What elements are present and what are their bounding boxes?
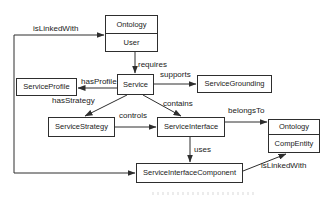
- node-service-interface: ServiceInterface: [157, 117, 225, 137]
- cropped-caption-remnant: [152, 192, 256, 195]
- edge-label-requires: requires: [138, 61, 167, 69]
- node-service-grounding: ServiceGrounding: [197, 75, 272, 93]
- edge-label-belongs-to: belongsTo: [228, 107, 264, 115]
- edge-label-uses: uses: [194, 146, 211, 154]
- edge-label-is-linked-with-bottom: isLinkedWith: [261, 162, 306, 170]
- node-service-profile: ServiceProfile: [16, 78, 77, 96]
- edge-label-has-strategy: hasStrategy: [52, 97, 95, 105]
- edge-label-has-profile: hasProfile: [81, 78, 117, 86]
- node-ontology-user: Ontology User: [105, 15, 158, 52]
- node-ontology-compentity-title: Ontology: [269, 120, 319, 135]
- edge-label-supports: supports: [160, 71, 191, 79]
- ontology-diagram: Ontology User ServiceProfile Service Ser…: [0, 0, 336, 200]
- node-service-interface-component: ServiceInterfaceComponent: [136, 163, 243, 183]
- node-ontology-compentity: Ontology CompEntity: [268, 119, 320, 153]
- node-service-strategy: ServiceStrategy: [48, 117, 115, 137]
- node-ontology-compentity-subtitle: CompEntity: [269, 135, 319, 152]
- edge-label-controls: controls: [119, 112, 147, 120]
- edge-label-contains: contains: [163, 100, 193, 108]
- node-service: Service: [117, 74, 154, 95]
- node-ontology-user-title: Ontology: [106, 16, 157, 34]
- edge-label-is-linked-with-top: isLinkedWith: [33, 25, 78, 33]
- node-ontology-user-subtitle: User: [106, 34, 157, 51]
